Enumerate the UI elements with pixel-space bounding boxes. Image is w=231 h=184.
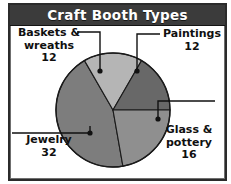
chart-title-bar: Craft Booth Types <box>10 5 225 26</box>
pie-plot-area: Baskets & wreaths 12 Paintings 12 Glass … <box>10 26 225 179</box>
label-glass-pottery-value: 16 <box>158 149 220 162</box>
label-jewelry-value: 32 <box>16 147 82 160</box>
label-glass-pottery-line1: Glass & <box>166 123 213 136</box>
label-baskets-wreaths-value: 12 <box>14 52 84 65</box>
figure-root: Craft Booth Types <box>0 0 231 184</box>
label-jewelry: Jewelry 32 <box>16 134 82 159</box>
label-glass-pottery: Glass & pottery 16 <box>158 124 220 162</box>
label-paintings-line1: Paintings <box>163 27 221 40</box>
page-title: Craft Booth Types <box>47 7 188 23</box>
label-paintings-value: 12 <box>160 41 224 54</box>
label-paintings: Paintings 12 <box>160 28 224 53</box>
label-baskets-wreaths: Baskets & wreaths 12 <box>14 27 84 65</box>
label-jewelry-line1: Jewelry <box>26 133 72 146</box>
label-baskets-wreaths-line1: Baskets & <box>18 26 80 39</box>
